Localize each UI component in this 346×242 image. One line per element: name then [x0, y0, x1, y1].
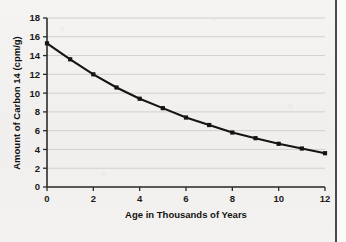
chart-figure: 024681012141618 024681012 Age in Thousan… — [0, 0, 346, 242]
decay-curve — [47, 43, 325, 153]
x-axis-title: Age in Thousands of Years — [125, 209, 247, 220]
y-tick-label: 2 — [35, 163, 40, 174]
data-point — [91, 72, 95, 76]
x-axis-tick-labels: 024681012 — [44, 193, 330, 204]
data-point — [45, 41, 49, 45]
data-point — [277, 142, 281, 146]
y-tick-label: 8 — [35, 106, 40, 117]
x-tick-label: 0 — [44, 193, 49, 204]
data-point — [323, 151, 327, 155]
data-point — [207, 123, 211, 127]
data-point — [161, 106, 165, 110]
x-tick-label: 4 — [137, 193, 143, 204]
x-tick-label: 8 — [230, 193, 235, 204]
x-tick-label: 12 — [320, 193, 331, 204]
y-tick-label: 0 — [35, 181, 40, 192]
data-point — [300, 146, 304, 150]
x-tick-label: 10 — [273, 193, 284, 204]
x-tick-label: 2 — [91, 193, 96, 204]
data-point — [68, 57, 72, 61]
y-tick-label: 10 — [29, 88, 40, 99]
y-tick-label: 14 — [29, 50, 40, 61]
data-point — [114, 85, 118, 89]
y-axis-title: Amount of Carbon 14 (cpm/g) — [11, 36, 22, 170]
data-point-markers — [45, 41, 327, 155]
y-tick-label: 12 — [29, 69, 40, 80]
y-tick-label: 18 — [29, 12, 40, 23]
y-tick-label: 6 — [35, 125, 40, 136]
x-tick-label: 6 — [183, 193, 188, 204]
data-point — [253, 136, 257, 140]
data-point — [138, 97, 142, 101]
y-tick-label: 4 — [35, 144, 41, 155]
data-point — [184, 115, 188, 119]
data-point — [230, 130, 234, 134]
y-axis-tick-labels: 024681012141618 — [29, 12, 40, 192]
scan-margin — [337, 0, 346, 242]
carbon-14-decay-chart: 024681012141618 024681012 Age in Thousan… — [0, 0, 346, 242]
y-tick-label: 16 — [29, 31, 40, 42]
gridlines — [47, 18, 325, 187]
